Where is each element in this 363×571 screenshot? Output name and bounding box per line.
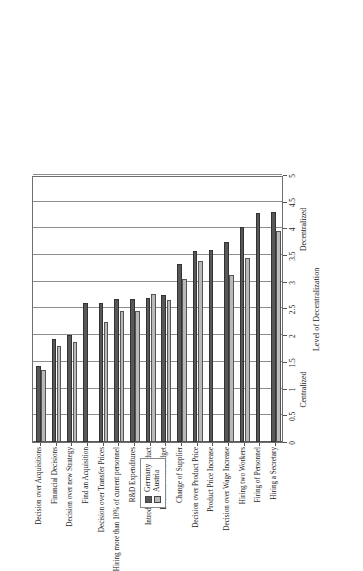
bar-group: [111, 177, 127, 442]
bar-austria: [276, 231, 281, 442]
category-axis-label: Product Price Increase: [209, 447, 216, 512]
bar-austria: [73, 342, 78, 442]
anchor-label-centralized: Centralized: [299, 372, 308, 408]
value-axis-tick: [283, 362, 287, 363]
bar-austria: [182, 279, 187, 442]
category-axis-tick: [103, 443, 104, 446]
bar-series-container: [33, 177, 282, 442]
legend-swatch-austria: [154, 496, 161, 503]
category-axis-tick: [228, 443, 229, 446]
value-axis-tick-label: 4.5: [288, 198, 297, 207]
bar-germany: [224, 242, 229, 442]
category-axis-label: Decision over Acquisitions: [36, 447, 43, 525]
category-axis-label: Decision over Wage Increase: [224, 447, 231, 531]
value-axis-tick-label: 0: [288, 441, 297, 445]
bar-group: [127, 177, 143, 442]
category-axis-label: Firing of Personnel: [256, 447, 263, 503]
category-axis-tick: [40, 443, 41, 446]
category-axis-tick: [197, 443, 198, 446]
value-axis-tick-label: 3: [288, 281, 297, 285]
bar-germany: [240, 227, 245, 442]
value-axis-tick-label: 1.5: [288, 358, 297, 367]
bar-group: [174, 177, 190, 442]
value-axis-tick-label: 3.5: [288, 251, 297, 260]
bar-germany: [99, 303, 104, 442]
bar-group: [80, 177, 96, 442]
value-axis-tick: [283, 415, 287, 416]
category-axis-label: Decision over Transfer Prices: [99, 447, 106, 532]
value-axis-tick-label: 4: [288, 228, 297, 232]
bar-austria: [41, 370, 46, 442]
bar-group: [190, 177, 206, 442]
category-axis-label: Hiring two Workers: [240, 447, 247, 504]
anchor-label-decentralized: Decentralized: [299, 208, 308, 251]
value-axis-tick-label: 5: [288, 174, 297, 178]
bar-group: [143, 177, 159, 442]
bar-austria: [229, 275, 234, 442]
category-axis-tick: [165, 443, 166, 446]
category-axis-tick: [275, 443, 276, 446]
value-axis-tick-label: 2: [288, 334, 297, 338]
value-axis-tick: [283, 282, 287, 283]
category-axis-tick: [244, 443, 245, 446]
bar-austria: [167, 301, 172, 443]
bar-group: [96, 177, 112, 442]
bar-austria: [135, 311, 140, 442]
legend-swatch-germany: [145, 496, 152, 503]
bar-austria: [57, 346, 62, 442]
bar-austria: [245, 258, 250, 442]
bar-germany: [193, 251, 198, 442]
bar-germany: [161, 295, 166, 442]
category-axis-tick: [118, 443, 119, 446]
bar-group: [49, 177, 65, 442]
bar-germany: [256, 213, 261, 442]
category-axis-label: Change of Supplier: [177, 447, 184, 503]
bar-germany: [52, 339, 57, 442]
legend-item-austria: Austria: [153, 464, 162, 503]
bar-germany: [67, 335, 72, 442]
category-axis-tick: [212, 443, 213, 446]
category-axis-tick: [71, 443, 72, 446]
bar-austria: [151, 294, 156, 442]
value-axis-tick: [283, 389, 287, 390]
value-axis-tick: [283, 335, 287, 336]
gridline: [33, 174, 282, 175]
category-axis-label: R&D Expenditures: [130, 447, 137, 502]
category-axis-label: Hiring a Secretary: [272, 447, 279, 500]
bar-germany: [177, 264, 182, 442]
bar-germany: [271, 212, 276, 442]
category-axis-tick: [56, 443, 57, 446]
bar-germany: [83, 303, 88, 442]
bar-germany: [36, 366, 41, 442]
bar-austria: [198, 261, 203, 442]
bar-group: [237, 177, 253, 442]
chart-legend: Germany Austria: [140, 458, 166, 508]
value-axis-tick: [283, 309, 287, 310]
category-axis-tick: [150, 443, 151, 446]
value-axis-tick: [283, 255, 287, 256]
plot-area: [32, 176, 283, 443]
bar-germany: [130, 299, 135, 442]
value-axis-tick: [283, 442, 287, 443]
bar-germany: [114, 299, 119, 442]
bar-group: [221, 177, 237, 442]
bar-group: [268, 177, 284, 442]
category-axis-label: Decision over new Strategy: [68, 447, 75, 527]
bar-group: [159, 177, 175, 442]
category-axis-label: Decision over Product Price: [193, 447, 200, 528]
bar-austria: [120, 311, 125, 442]
category-axis-tick: [87, 443, 88, 446]
value-axis-title: Level of Decentralization: [312, 176, 321, 443]
category-axis-tick: [181, 443, 182, 446]
value-axis-tick-label: 1: [288, 388, 297, 392]
value-axis-tick-label: 2.5: [288, 305, 297, 314]
category-axis-label: Find an Acquisition: [83, 447, 90, 504]
value-axis-tick-label: 0.5: [288, 412, 297, 421]
legend-label-austria: Austria: [153, 470, 162, 492]
bar-group: [206, 177, 222, 442]
value-axis-tick: [283, 175, 287, 176]
category-axis-tick: [134, 443, 135, 446]
bar-germany: [209, 250, 214, 442]
